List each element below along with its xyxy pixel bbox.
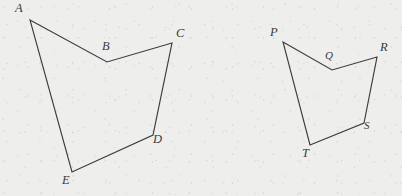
vertex-label-c: C — [176, 27, 184, 40]
vertex-label-p: P — [270, 26, 278, 39]
vertex-label-s: S — [364, 120, 370, 131]
vertex-label-d: D — [153, 133, 162, 146]
vertex-label-b: B — [102, 40, 110, 53]
vertex-label-t: T — [302, 147, 309, 160]
vertex-label-q: Q — [325, 50, 333, 61]
vertex-label-r: R — [380, 41, 388, 54]
geometry-figure: A B C D E P Q R S T — [0, 0, 402, 196]
figure-canvas — [0, 0, 402, 196]
vertex-label-a: A — [15, 2, 23, 15]
polygon-abcde — [30, 20, 172, 172]
vertex-label-e: E — [62, 174, 70, 187]
